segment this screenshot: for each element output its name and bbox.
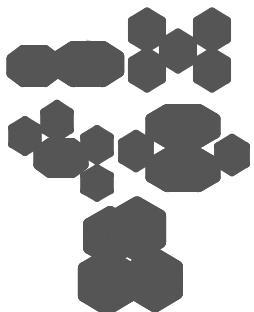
panel-b-x-arrangement: [132, 12, 227, 88]
panel-e-tetrahedral-cluster: [84, 203, 176, 309]
panel-d-double-layer: [122, 110, 246, 187]
icosahedra-figure: [0, 0, 254, 312]
panel-a-small-cluster: [12, 50, 56, 82]
panel-a-large-cluster: [59, 40, 117, 81]
panel-c-chain: [12, 104, 110, 198]
